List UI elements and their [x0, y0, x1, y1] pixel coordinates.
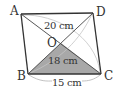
vertex-label-a: A [9, 4, 19, 18]
measurement-label-bd: 18 cm [48, 55, 78, 66]
vertex-label-d: D [96, 5, 106, 19]
parallelogram-diagram: A D B C O 20 cm 18 cm 15 cm [0, 0, 117, 94]
measurement-label-bc: 15 cm [52, 77, 82, 88]
side-ab [21, 14, 28, 74]
side-ad [21, 13, 93, 14]
vertex-label-b: B [17, 69, 26, 83]
measurement-label-ac: 20 cm [44, 20, 74, 31]
vertex-label-o: O [47, 36, 57, 50]
side-dc [93, 13, 101, 74]
vertex-label-c: C [104, 69, 113, 83]
